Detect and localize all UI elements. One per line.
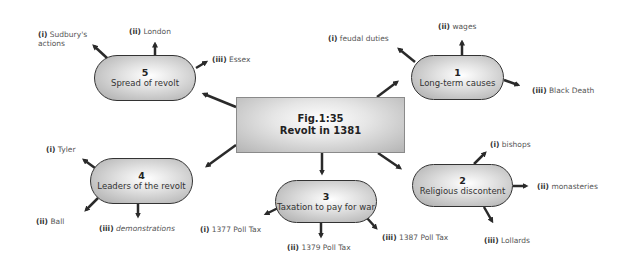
node-title: Leaders of the revolt — [97, 181, 185, 192]
branch-label-2-iii: (iii) Lollards — [484, 236, 530, 245]
branch-label-2-i: (i) bishops — [490, 140, 531, 149]
arrow-2-i — [474, 153, 485, 164]
node-spread-of-revolt: 5 Spread of revolt — [94, 55, 196, 101]
branch-label-1-i: (i) feudal duties — [328, 34, 389, 43]
central-figure-label: Fig.1:35 — [297, 113, 343, 125]
branch-label-4-ii: (ii) Ball — [36, 217, 64, 226]
branch-label-1-ii: (ii) wages — [438, 22, 476, 31]
branch-label-5-iii: (iii) Essex — [212, 55, 250, 64]
central-title: Revolt in 1381 — [280, 125, 361, 137]
mind-map-diagram: Fig.1:35 Revolt in 1381 5 Spread of revo… — [0, 0, 628, 268]
node-religious-discontent: 2 Religious discontent — [412, 164, 513, 207]
arrow-3-iii — [367, 218, 376, 228]
node-title: Spread of revolt — [111, 78, 179, 89]
branch-label-4-iii: (iii) demonstrations — [99, 224, 175, 233]
node-long-term-causes: 1 Long-term causes — [411, 55, 504, 100]
central-topic-box: Fig.1:35 Revolt in 1381 — [236, 97, 405, 153]
node-number: 3 — [323, 191, 330, 202]
node-number: 4 — [138, 170, 145, 181]
node-leaders-of-the-revolt: 4 Leaders of the revolt — [90, 158, 193, 204]
branch-label-1-iii: (iii) Black Death — [532, 86, 594, 95]
arrow-5-i — [94, 46, 107, 58]
arrow-center-to-node-2 — [378, 153, 400, 168]
arrow-2-iii — [484, 207, 492, 221]
arrow-1-iii — [504, 80, 518, 85]
branch-label-3-ii: (ii) 1379 Poll Tax — [287, 243, 351, 252]
arrow-center-to-node-4 — [207, 145, 236, 166]
node-title: Religious discontent — [420, 186, 506, 197]
node-number: 2 — [459, 175, 466, 186]
branch-label-3-i: (i) 1377 Poll Tax — [200, 225, 261, 234]
node-number: 1 — [454, 67, 461, 78]
node-taxation-to-pay-for-war: 3 Taxation to pay for war — [275, 180, 377, 223]
node-title: Taxation to pay for war — [277, 202, 375, 213]
node-title: Long-term causes — [420, 78, 496, 89]
branch-label-5-i: (i) Sudbury's actions — [38, 30, 87, 48]
branch-label-3-iii: (iii) 1387 Poll Tax — [382, 233, 448, 242]
node-number: 5 — [142, 67, 149, 78]
arrow-1-i — [399, 49, 415, 62]
branch-label-2-ii: (ii) monasteries — [537, 182, 598, 191]
arrow-4-ii — [86, 198, 98, 210]
arrow-5-iii — [196, 62, 206, 68]
branch-label-5-ii: (ii) London — [129, 27, 171, 36]
branch-label-4-i: (i) Tyler — [46, 145, 75, 154]
arrow-center-to-node-5 — [204, 94, 236, 107]
arrow-center-to-node-1 — [377, 82, 397, 97]
